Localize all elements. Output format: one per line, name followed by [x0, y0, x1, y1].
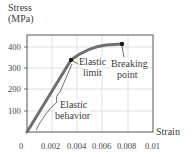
- elastic-limit-label-line2: limit: [83, 67, 102, 78]
- y-tick-100: 100: [8, 107, 21, 116]
- elastic-behavior-label-line1: Elastic: [60, 99, 87, 110]
- breaking-point-label-line1: Breaking: [111, 58, 148, 69]
- x-tick-0002: 0.002: [41, 142, 60, 151]
- y-tick-300: 300: [8, 64, 21, 73]
- x-axis-label: Strain: [156, 126, 180, 137]
- x-tick-0004: 0.004: [67, 142, 86, 151]
- breaking-point-pointer: [122, 46, 124, 57]
- elastic-limit-marker: [69, 58, 73, 62]
- elastic-limit-label-line1: Elastic: [79, 56, 106, 67]
- y-axis-label-line1: Stress: [8, 2, 32, 13]
- breaking-point-label-line2: point: [117, 69, 138, 80]
- y-tick-400: 400: [8, 43, 21, 52]
- breaking-point-marker: [120, 42, 124, 46]
- x-tick-001: 0.01: [145, 142, 160, 151]
- y-axis-label-line2: (MPa): [8, 13, 34, 24]
- x-tick-0: 0: [19, 142, 23, 151]
- x-tick-0008: 0.008: [117, 142, 136, 151]
- y-tick-200: 200: [8, 85, 21, 94]
- elastic-behavior-label-line2: behavior: [55, 110, 90, 121]
- x-tick-0006: 0.006: [92, 142, 111, 151]
